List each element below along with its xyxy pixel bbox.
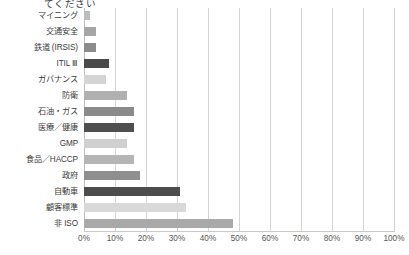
bar — [84, 59, 109, 68]
bar — [84, 75, 106, 84]
value-axis-labels: 0%10%20%30%40%50%60%70%80%90%100% — [84, 234, 394, 250]
bar-row — [84, 200, 394, 216]
bar — [84, 27, 96, 36]
bar — [84, 139, 127, 148]
category-label: 医療／健康 — [0, 120, 81, 136]
x-tick-label: 100% — [374, 234, 409, 243]
category-label: マイニング — [0, 8, 81, 24]
category-label: 鉄道 (IRSIS) — [0, 40, 81, 56]
category-label: ガバナンス — [0, 72, 81, 88]
bar — [84, 123, 134, 132]
bar-row — [84, 24, 394, 40]
bar-row — [84, 72, 394, 88]
bar — [84, 203, 186, 212]
bar-row — [84, 8, 394, 24]
category-axis-labels: マイニング交通安全鉄道 (IRSIS)ITIL Ⅲガバナンス防衛石油・ガス医療／… — [0, 8, 81, 232]
bar-row — [84, 152, 394, 168]
category-label: 石油・ガス — [0, 104, 81, 120]
category-label: GMP — [0, 136, 81, 152]
bar-row — [84, 168, 394, 184]
axis-baseline — [84, 231, 395, 232]
category-label: 自動車 — [0, 184, 81, 200]
bar — [84, 187, 180, 196]
category-label: 顧客標準 — [0, 200, 81, 216]
bar — [84, 11, 90, 20]
bar-row — [84, 120, 394, 136]
category-label: 防衛 — [0, 88, 81, 104]
bar — [84, 107, 134, 116]
plot-area — [84, 8, 394, 232]
category-label: 政府 — [0, 168, 81, 184]
bar-row — [84, 184, 394, 200]
bar — [84, 43, 96, 52]
gridline — [394, 8, 395, 232]
bar-row — [84, 104, 394, 120]
bar-row — [84, 56, 394, 72]
bar — [84, 155, 134, 164]
bar — [84, 171, 140, 180]
category-label: 交通安全 — [0, 24, 81, 40]
category-label: 非 ISO — [0, 216, 81, 232]
bar-row — [84, 88, 394, 104]
bars-container — [84, 8, 394, 232]
bar-row — [84, 40, 394, 56]
bar-row — [84, 136, 394, 152]
chart-title-fragment: てください — [0, 0, 140, 8]
category-label: ITIL Ⅲ — [0, 56, 81, 72]
bar-row — [84, 216, 394, 232]
bar — [84, 219, 233, 228]
bar — [84, 91, 127, 100]
category-label: 食品／HACCP — [0, 152, 81, 168]
